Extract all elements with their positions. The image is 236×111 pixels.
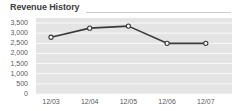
- x-axis-tick-label: 12/05: [112, 97, 144, 107]
- data-point-marker: [88, 26, 92, 30]
- y-axis-tick-label: 2,500: [0, 38, 28, 47]
- chart-header: Revenue History: [10, 0, 231, 14]
- y-axis-tick-label: 1,000: [0, 69, 28, 78]
- x-axis-tick-label: 12/04: [74, 97, 106, 107]
- y-axis-tick-label: 2,000: [0, 48, 28, 57]
- revenue-history-widget: Revenue History 05001,0001,5002,0002,500…: [0, 0, 236, 111]
- y-axis-tick-label: 1,500: [0, 59, 28, 68]
- x-axis-tick-label: 12/03: [35, 97, 67, 107]
- data-point-marker: [126, 24, 130, 28]
- plot-area: [36, 18, 232, 94]
- x-axis-tick-label: 12/06: [151, 97, 183, 107]
- data-point-marker: [165, 41, 169, 45]
- x-axis: 12/0312/0412/0512/0612/07: [0, 97, 236, 109]
- x-axis-tick-label: 12/07: [190, 97, 222, 107]
- y-axis-tick-label: 500: [0, 79, 28, 88]
- data-point-marker: [204, 41, 208, 45]
- data-point-marker: [49, 35, 53, 39]
- revenue-line-chart-svg: [36, 18, 232, 94]
- y-axis-tick-label: 3,500: [0, 18, 28, 27]
- title-divider: [86, 12, 231, 13]
- y-axis: 05001,0001,5002,0002,5003,0003,500: [0, 0, 33, 111]
- y-axis-tick-label: 3,000: [0, 28, 28, 37]
